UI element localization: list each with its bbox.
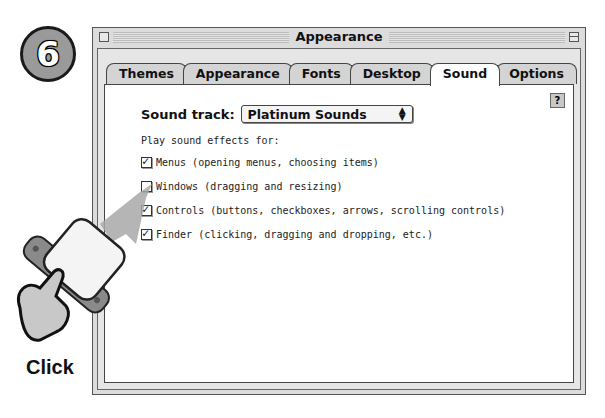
tab-appearance[interactable]: Appearance: [183, 63, 293, 84]
checkbox-menus[interactable]: [141, 157, 152, 168]
tab-desktop[interactable]: Desktop: [350, 63, 434, 84]
tab-bar: Themes Appearance Fonts Desktop Sound Op…: [106, 63, 573, 85]
click-label: Click: [26, 356, 74, 379]
option-menus[interactable]: Menus (opening menus, choosing items): [141, 157, 379, 168]
option-label: Menus (opening menus, choosing items): [156, 157, 379, 168]
step-number-badge: 6: [20, 26, 76, 82]
help-button[interactable]: ?: [550, 93, 565, 108]
sound-track-row: Sound track: Platinum Sounds ▲▼: [141, 105, 413, 123]
option-label: Controls (buttons, checkboxes, arrows, s…: [156, 205, 505, 216]
collapse-box-icon[interactable]: [569, 32, 579, 42]
help-icon: ?: [555, 95, 561, 106]
sound-track-label: Sound track:: [141, 107, 235, 122]
tab-themes[interactable]: Themes: [106, 63, 187, 84]
window-title: Appearance: [289, 29, 388, 44]
tab-sound[interactable]: Sound: [430, 63, 500, 86]
play-effects-heading: Play sound effects for:: [141, 135, 279, 146]
sound-track-value: Platinum Sounds: [248, 107, 367, 122]
tab-fonts[interactable]: Fonts: [289, 63, 354, 84]
tab-options[interactable]: Options: [496, 63, 577, 84]
click-hand-callout-icon: [0, 180, 200, 418]
step-number: 6: [36, 34, 60, 74]
popup-arrows-icon: ▲▼: [399, 107, 406, 121]
sound-track-popup[interactable]: Platinum Sounds ▲▼: [241, 105, 413, 123]
title-bar[interactable]: Appearance: [93, 28, 585, 47]
